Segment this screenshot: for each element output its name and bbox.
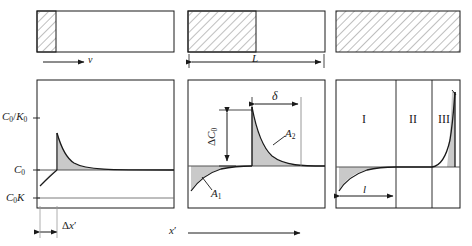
- length-l-label: l: [363, 183, 366, 195]
- length-L-label: L: [252, 52, 258, 64]
- delta-x-label: Δx′: [62, 219, 76, 231]
- zone-label-III: III: [438, 112, 450, 127]
- zone-label-II: II: [409, 112, 417, 127]
- top-bar-final: [336, 11, 460, 52]
- x-axis-label: x′: [169, 224, 176, 236]
- area-a1-label: A1: [211, 187, 221, 201]
- solid-region-hatched: [336, 11, 460, 52]
- solid-region-hatched: [37, 11, 56, 52]
- chart-panel-steady: [188, 80, 325, 233]
- delta-x-dimension-arrow: [40, 206, 57, 238]
- delta-label: δ: [272, 89, 278, 104]
- velocity-label: v: [88, 54, 92, 65]
- ytick-label-c0k: C0K: [6, 191, 24, 205]
- ytick-label-c0: C0: [14, 163, 25, 177]
- diagram-svg: [0, 0, 472, 246]
- zone-label-I: I: [362, 112, 366, 127]
- area-a2-label: A2: [285, 127, 295, 141]
- ytick-label-c0-over-k0: C0/K0: [2, 110, 27, 124]
- chart-panel-zones: [336, 80, 460, 208]
- chart-panel-initial: [33, 80, 174, 238]
- delta-c0-label: ΔC0: [205, 128, 219, 146]
- figure-root: [0, 0, 472, 246]
- solid-region-hatched: [188, 11, 256, 52]
- top-bar-initial: [37, 11, 174, 62]
